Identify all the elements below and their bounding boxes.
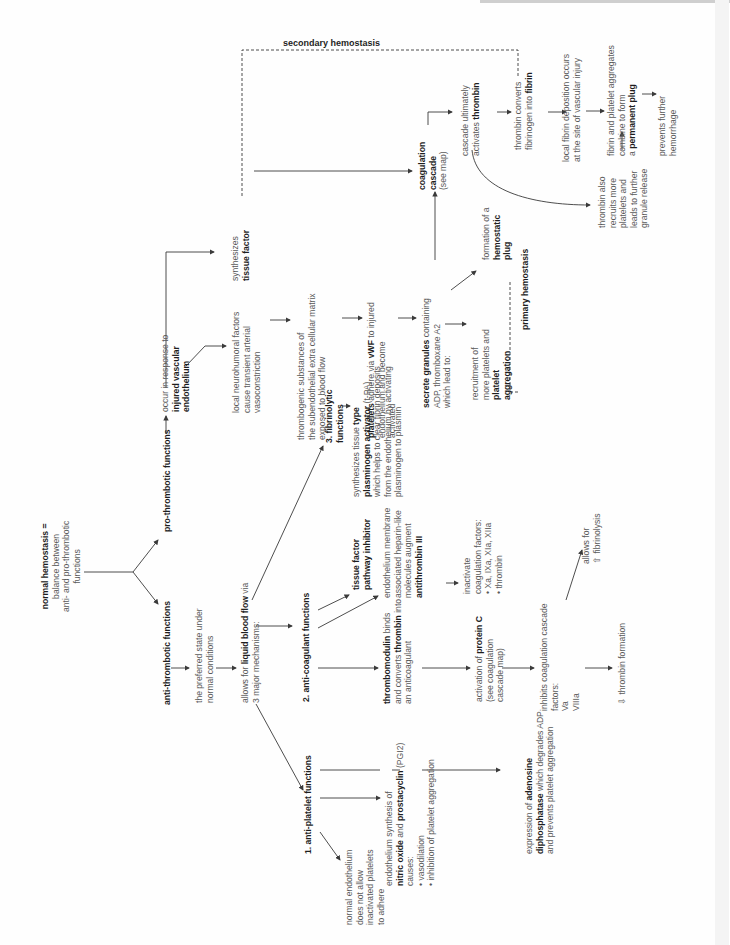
node-line: cascade <box>428 142 439 190</box>
node-line: (see coagulation <box>485 616 496 702</box>
node-line: cause transient arterial <box>242 312 253 413</box>
node-heparin-like: endothelium membraneassociated heparin-l… <box>382 508 424 598</box>
node-protein-c: activation of protein C(see coagulationc… <box>474 616 506 702</box>
node-line: granule release <box>639 169 650 228</box>
node-line: anti-thrombotic functions <box>162 601 173 705</box>
node-hemostatic-plug: formation of ahemostaticplug <box>481 207 513 260</box>
secondary-hemostasis-label: secondary hemostasis <box>283 38 380 48</box>
node-line: factors: <box>550 604 561 712</box>
node-line: the subendothelial extra cellular matrix <box>307 293 318 440</box>
node-line: plasminogen activator (t-PA) <box>362 366 373 497</box>
node-line: plug <box>502 207 513 260</box>
node-normal-hemostasis: normal hemostasis =balance betweenanti- … <box>40 521 82 612</box>
node-line: allows for <box>581 513 592 564</box>
node-fibrinolysis: allows for⇧ fibrinolysis <box>581 513 602 564</box>
node-line: platelets and <box>618 169 629 228</box>
node-line: secrete granules containing <box>421 298 432 408</box>
node-line: diphosphatase which degrades ADP <box>535 711 546 854</box>
node-line: • thrombin <box>494 519 505 594</box>
node-line: activates thrombin <box>471 82 482 156</box>
node-anti-coagulant: 2. anti-coagulant functions <box>301 593 312 702</box>
node-line: normal hemostasis = <box>40 521 51 612</box>
node-thrombomodulin: thrombomodulin bindsand converts thrombi… <box>382 599 414 704</box>
node-line: inactivated platelets <box>365 850 376 925</box>
node-tissue-factor: synthesizestissue factor <box>230 230 251 281</box>
node-line: synthesizes <box>230 230 241 281</box>
node-line: functions <box>335 390 346 443</box>
node-activates-thrombin: cascade ultimatelyactivates thrombin <box>460 82 481 156</box>
node-line: pathway inhibitor <box>362 519 373 590</box>
node-line: ⇩ thrombin formation <box>617 623 628 705</box>
node-line: combine to form <box>617 45 628 156</box>
node-line: • inhibition of platelet aggregation <box>426 743 437 886</box>
node-tfpi: tissue factorpathway inhibitor <box>351 519 372 590</box>
node-thrombin-recruits: thrombin alsorecruits moreplatelets andl… <box>597 169 650 228</box>
node-line: vasoconstriction <box>252 312 263 413</box>
node-line: normal endothelium <box>344 850 355 925</box>
node-line: antithrombin III <box>414 508 425 598</box>
node-line: balance between <box>51 521 62 612</box>
node-line: from the endothelium by activating <box>383 366 394 497</box>
node-thrombogenic: thrombogenic substances ofthe subendothe… <box>296 293 328 440</box>
node-anti-thrombotic: anti-thrombotic functions <box>162 601 173 705</box>
node-line: expression of adenosine <box>524 711 535 854</box>
node-line: associated heparin-like <box>393 508 404 598</box>
node-fibrin-deposition: local fibrin deposition occursat the sit… <box>561 54 582 162</box>
node-inhibits-cascade: inhibits coagulation cascadefactors:VaVI… <box>539 604 581 712</box>
node-coagulation-cascade: coagulationcascade(see map) <box>417 142 449 190</box>
node-line: plasminogen to plasmin <box>393 366 404 497</box>
node-line: an anticoagulant <box>403 599 414 704</box>
node-line: ADP, thromboxane A2 <box>432 298 443 408</box>
node-line: a permanent plug <box>627 45 638 156</box>
node-line: nitric oxide and prostacyclin (PGI2) <box>395 743 406 886</box>
node-line: prevents further <box>657 96 668 156</box>
node-line: normal conditions <box>205 608 216 703</box>
node-anti-platelet: 1. anti-platelet functions <box>303 755 314 854</box>
node-injured-endothelium: occur in response toinjured vascularendo… <box>160 335 192 412</box>
node-pro-thrombotic: pro-thrombotic functions <box>162 429 173 532</box>
node-line: fibrinogen into fibrin <box>524 72 535 150</box>
node-neurohumoral: local neurohumoral factorscause transien… <box>231 312 263 413</box>
node-line: synthesizes tissue type <box>351 366 362 497</box>
node-line: does not allow <box>355 850 366 925</box>
node-line: thrombogenic substances of <box>296 293 307 440</box>
node-line: endothelium synthesis of <box>384 743 395 886</box>
node-line: anti- and pro-thrombotic <box>61 521 72 612</box>
node-line: local fibrin deposition occurs <box>561 54 572 162</box>
node-no-prostacyclin: endothelium synthesis ofnitric oxide and… <box>384 743 437 886</box>
node-line: coagulation factors: <box>473 519 484 594</box>
node-line: functions <box>72 521 83 612</box>
node-line: aggregation <box>502 329 513 400</box>
node-line: occur in response to <box>160 335 171 412</box>
node-line: ⇧ fibrinolysis <box>592 513 603 564</box>
node-line: platelet <box>491 329 502 400</box>
node-permanent-plug: fibrin and platelet aggregatescombine to… <box>606 45 638 156</box>
node-line: hemorrhage <box>668 96 679 156</box>
node-normal-endothelium: normal endotheliumdoes not allowinactiva… <box>344 850 386 925</box>
node-line: 3 major mechanisms: <box>251 583 262 703</box>
node-thrombin-formation: ⇩ thrombin formation <box>617 623 628 705</box>
node-line: • Xa, IXa, XIa, XIIa <box>483 519 494 594</box>
node-line: formation of a <box>481 207 492 260</box>
node-inactivate-factors: inactivatecoagulation factors:• Xa, IXa,… <box>462 519 504 594</box>
node-line: recruits more <box>608 169 619 228</box>
node-line: which lead to: <box>442 298 453 408</box>
node-line: local neurohumoral factors <box>231 312 242 413</box>
node-line: primary hemostasis <box>520 249 531 330</box>
node-line: Va <box>560 604 571 712</box>
node-line: allows for liquid blood flow via <box>240 583 251 703</box>
node-line: endothelium <box>181 335 192 412</box>
node-line: injured vascular <box>171 335 182 412</box>
node-line: thrombomodulin binds <box>382 599 393 704</box>
node-line: coagulation <box>417 142 428 190</box>
node-line: at the site of vascular injury <box>572 54 583 162</box>
node-line: thrombin converts <box>513 72 524 150</box>
node-prevents-hemorrhage: prevents furtherhemorrhage <box>657 96 678 156</box>
node-line: molecules augment <box>403 508 414 598</box>
node-line: more platelets and <box>481 329 492 400</box>
node-line: cascade ultimately <box>460 82 471 156</box>
node-line: hemostatic <box>492 207 503 260</box>
primary-hemostasis-label: primary hemostasis <box>520 249 531 330</box>
node-preferred-state: the preferred state undernormal conditio… <box>194 608 215 703</box>
